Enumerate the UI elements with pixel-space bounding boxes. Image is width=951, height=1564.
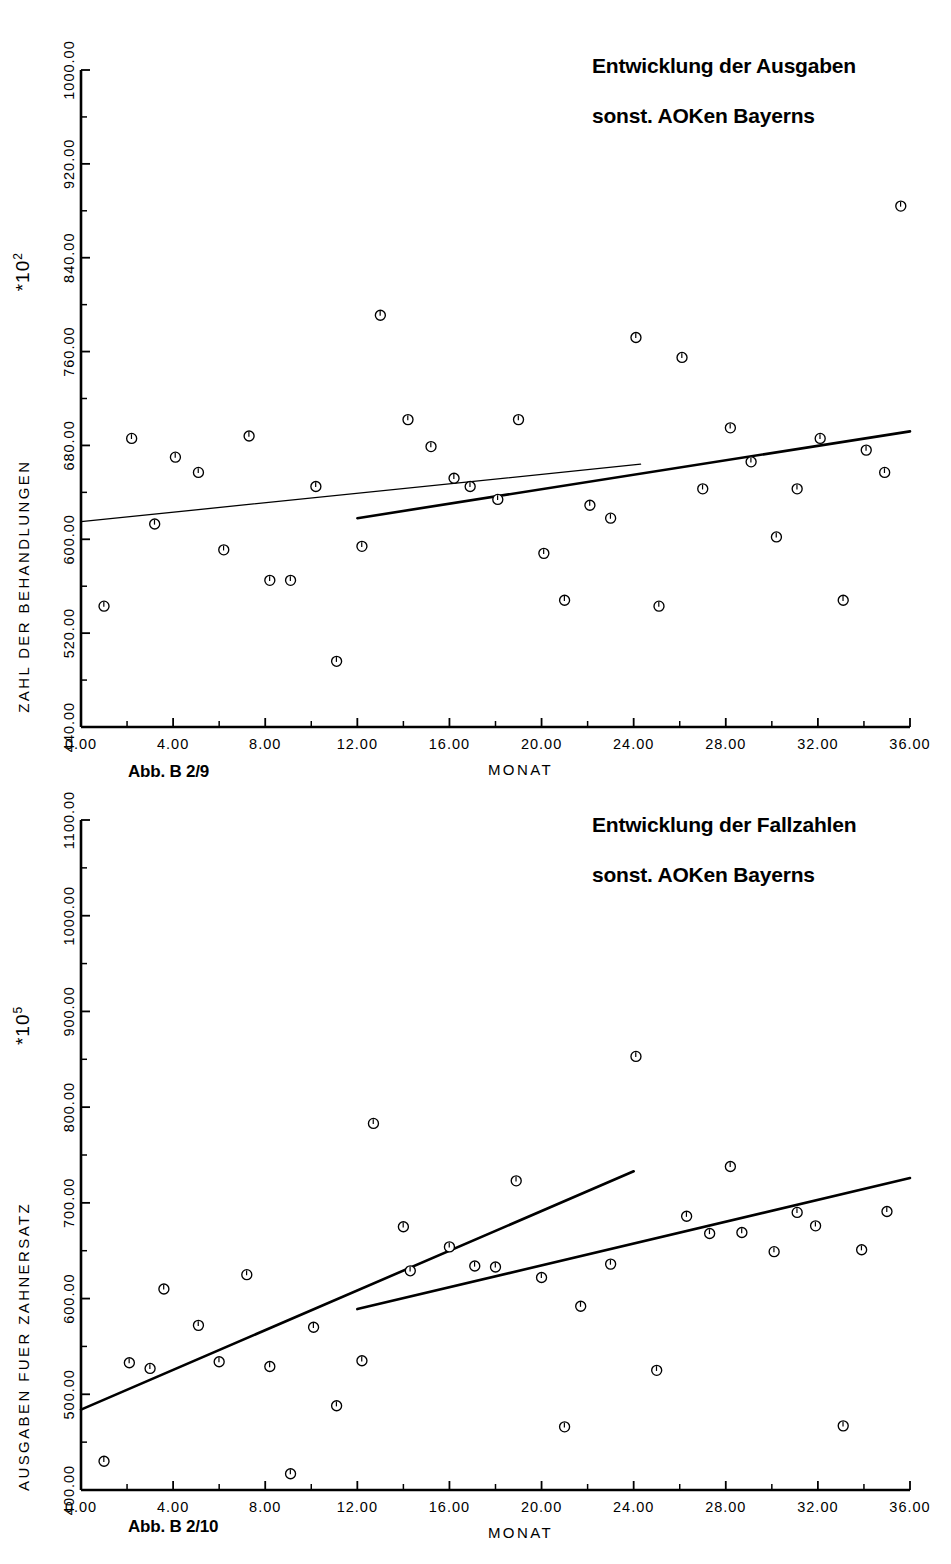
y-tick-label: 1000.00 bbox=[61, 886, 77, 945]
y-tick-label: 760.00 bbox=[61, 326, 77, 376]
data-point bbox=[792, 1207, 802, 1217]
svg-text:28.00: 28.00 bbox=[705, 736, 746, 752]
data-point bbox=[539, 548, 549, 558]
svg-text:32.00: 32.00 bbox=[797, 736, 838, 752]
data-point bbox=[265, 1362, 275, 1372]
x-tick-label: 36.00 bbox=[889, 1499, 930, 1515]
svg-text:*102: *102 bbox=[11, 252, 33, 291]
data-point bbox=[815, 433, 825, 443]
data-point bbox=[838, 1421, 848, 1431]
svg-text:8.00: 8.00 bbox=[249, 1499, 281, 1515]
data-point bbox=[560, 1422, 570, 1432]
data-point bbox=[857, 1245, 867, 1255]
y-tick-label: 900.00 bbox=[61, 986, 77, 1036]
data-point bbox=[769, 1247, 779, 1257]
data-point bbox=[725, 423, 735, 433]
svg-text:8.00: 8.00 bbox=[249, 736, 281, 752]
svg-text:16.00: 16.00 bbox=[429, 1499, 470, 1515]
data-point bbox=[405, 1266, 415, 1276]
data-point bbox=[127, 433, 137, 443]
data-point bbox=[470, 1261, 480, 1271]
data-point bbox=[838, 595, 848, 605]
data-point bbox=[882, 1206, 892, 1216]
data-point bbox=[652, 1365, 662, 1375]
x-tick-label: 20.00 bbox=[521, 1499, 562, 1515]
data-point bbox=[375, 310, 385, 320]
data-point bbox=[426, 442, 436, 452]
data-point bbox=[631, 332, 641, 342]
x-tick-label: 16.00 bbox=[429, 1499, 470, 1515]
trend-line-second-period-trend bbox=[357, 431, 910, 518]
x-tick-label: 12.00 bbox=[337, 1499, 378, 1515]
data-point bbox=[403, 415, 413, 425]
y-tick-label: 800.00 bbox=[61, 1082, 77, 1132]
data-point bbox=[606, 513, 616, 523]
y-tick-label: 920.00 bbox=[61, 139, 77, 189]
chart-1-plot-area: 0.004.008.0012.0016.0020.0024.0028.0032.… bbox=[0, 0, 951, 795]
data-point bbox=[332, 1401, 342, 1411]
svg-text:24.00: 24.00 bbox=[613, 1499, 654, 1515]
data-point bbox=[677, 352, 687, 362]
y-tick-label: 840.00 bbox=[61, 233, 77, 283]
svg-text:12.00: 12.00 bbox=[337, 736, 378, 752]
y-tick-label: 600.00 bbox=[61, 514, 77, 564]
x-axis-label: MONAT bbox=[488, 1524, 553, 1541]
data-point bbox=[286, 575, 296, 585]
x-tick-label: 24.00 bbox=[613, 736, 654, 752]
x-tick-label: 8.00 bbox=[249, 1499, 281, 1515]
trend-line-second-period-trend bbox=[357, 1178, 910, 1309]
svg-text:36.00: 36.00 bbox=[889, 736, 930, 752]
data-point bbox=[150, 519, 160, 529]
chart-panel-behandlungen: Entwicklung der Ausgaben sonst. AOKen Ba… bbox=[0, 0, 951, 795]
svg-text:20.00: 20.00 bbox=[521, 736, 562, 752]
y-tick-label: 500.00 bbox=[61, 1369, 77, 1419]
data-point bbox=[771, 532, 781, 542]
x-tick-label: 16.00 bbox=[429, 736, 470, 752]
x-tick-label: 12.00 bbox=[337, 736, 378, 752]
y-tick-label: 440.00 bbox=[61, 702, 77, 752]
data-point bbox=[219, 545, 229, 555]
data-point bbox=[242, 1270, 252, 1280]
x-tick-label: 32.00 bbox=[797, 736, 838, 752]
data-point bbox=[159, 1284, 169, 1294]
data-point bbox=[746, 457, 756, 467]
y-tick-label: 600.00 bbox=[61, 1273, 77, 1323]
data-point bbox=[491, 1262, 501, 1272]
data-point bbox=[193, 467, 203, 477]
y-axis-label: AUSGABEN FUER ZAHNERSATZ bbox=[15, 1202, 32, 1491]
data-point bbox=[465, 481, 475, 491]
data-point bbox=[698, 484, 708, 494]
data-point bbox=[725, 1161, 735, 1171]
svg-text:4.00: 4.00 bbox=[157, 1499, 189, 1515]
svg-text:28.00: 28.00 bbox=[705, 1499, 746, 1515]
y-tick-label: 400.00 bbox=[61, 1465, 77, 1515]
data-point bbox=[309, 1322, 319, 1332]
data-point bbox=[654, 601, 664, 611]
svg-text:24.00: 24.00 bbox=[613, 736, 654, 752]
svg-text:4.00: 4.00 bbox=[157, 736, 189, 752]
x-tick-label: 24.00 bbox=[613, 1499, 654, 1515]
data-point bbox=[631, 1051, 641, 1061]
data-point bbox=[214, 1357, 224, 1367]
y-axis-multiplier: *102 bbox=[11, 252, 33, 291]
svg-text:32.00: 32.00 bbox=[797, 1499, 838, 1515]
data-point bbox=[99, 601, 109, 611]
data-point bbox=[332, 656, 342, 666]
x-tick-label: 28.00 bbox=[705, 1499, 746, 1515]
data-point bbox=[514, 415, 524, 425]
data-point bbox=[682, 1211, 692, 1221]
data-point bbox=[193, 1320, 203, 1330]
x-tick-label: 36.00 bbox=[889, 736, 930, 752]
svg-text:36.00: 36.00 bbox=[889, 1499, 930, 1515]
y-tick-label: 700.00 bbox=[61, 1178, 77, 1228]
data-point bbox=[311, 481, 321, 491]
y-tick-label: 520.00 bbox=[61, 608, 77, 658]
x-tick-label: 4.00 bbox=[157, 1499, 189, 1515]
y-axis-multiplier: *105 bbox=[11, 1006, 33, 1045]
data-point bbox=[576, 1301, 586, 1311]
data-point bbox=[444, 1242, 454, 1252]
trend-line-full-range-trend bbox=[81, 464, 641, 521]
data-point bbox=[398, 1222, 408, 1232]
svg-text:20.00: 20.00 bbox=[521, 1499, 562, 1515]
data-point bbox=[705, 1228, 715, 1238]
